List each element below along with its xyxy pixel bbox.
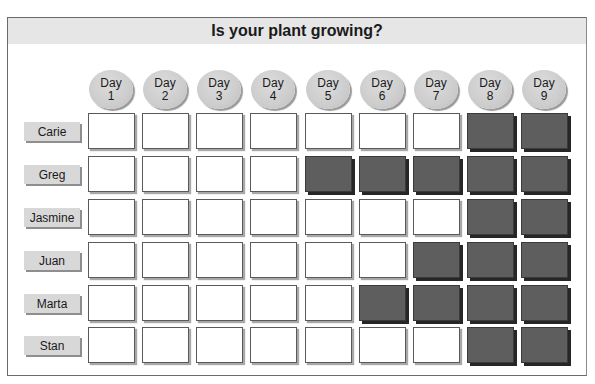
student-name-label: Carie [24,122,80,141]
grid-cell-grown [359,285,406,321]
grid-cell-empty [142,199,189,235]
grid-cell-empty [88,156,135,192]
grid-cell-grown [305,156,352,192]
grid-cell-empty [359,199,406,235]
day-number: 8 [487,90,494,103]
day-number: 1 [108,90,115,103]
day-badge-5: Day5 [306,70,350,109]
grid-cell-empty [250,156,297,192]
grid-cell-empty [196,113,243,149]
student-name-label: Jasmine [24,208,80,227]
student-name-label: Greg [24,165,80,184]
grid-cell-empty [413,199,460,235]
day-label: Day [425,77,446,90]
grid-cell-empty [250,242,297,278]
grid-cell-grown [467,327,514,363]
day-label: Day [262,77,283,90]
grid-cell-empty [250,113,297,149]
chart-title: Is your plant growing? [211,22,383,40]
grid-cell-empty [196,285,243,321]
grid-cell-empty [142,327,189,363]
grid-cell-empty [305,285,352,321]
grid-cell-empty [413,113,460,149]
grid-cell-empty [359,242,406,278]
day-label: Day [533,77,554,90]
day-label: Day [100,77,121,90]
day-badge-7: Day7 [414,70,458,109]
grid-cell-empty [142,285,189,321]
grid-cell-grown [413,242,460,278]
grid-cell-empty [250,199,297,235]
grid-cell-grown [467,285,514,321]
grid-cell-empty [88,285,135,321]
grid-cell-grown [521,113,568,149]
day-badge-2: Day2 [143,70,187,109]
grid-cell-empty [305,327,352,363]
grid-cell-empty [250,327,297,363]
grid-cell-grown [467,199,514,235]
day-number: 5 [325,90,332,103]
grid-cell-empty [305,113,352,149]
grid-cell-empty [196,327,243,363]
student-name-label: Marta [24,294,80,313]
grid-cell-empty [359,327,406,363]
grid-cell-grown [521,327,568,363]
day-number: 2 [162,90,169,103]
grid-cell-empty [142,156,189,192]
day-badge-9: Day9 [522,70,566,109]
day-label: Day [371,77,392,90]
day-label: Day [208,77,229,90]
day-label: Day [154,77,175,90]
student-name-label: Juan [24,251,80,270]
grid-cell-empty [196,199,243,235]
grid-cell-empty [305,199,352,235]
day-badge-4: Day4 [251,70,295,109]
day-label: Day [317,77,338,90]
day-number: 3 [216,90,223,103]
grid-cell-empty [142,242,189,278]
chart-frame: Is your plant growing? [7,17,587,376]
day-badge-3: Day3 [197,70,241,109]
day-number: 9 [541,90,548,103]
grid-cell-grown [467,242,514,278]
day-number: 6 [379,90,386,103]
grid-cell-grown [467,156,514,192]
day-badge-1: Day1 [89,70,133,109]
grid-cell-empty [88,327,135,363]
grid-cell-empty [88,199,135,235]
grid-cell-empty [196,156,243,192]
grid-cell-empty [413,327,460,363]
grid-cell-grown [521,242,568,278]
grid-cell-grown [413,156,460,192]
grid-cell-empty [142,113,189,149]
grid-cell-empty [196,242,243,278]
grid-cell-grown [521,156,568,192]
day-label: Day [479,77,500,90]
day-badge-8: Day8 [468,70,512,109]
day-number: 4 [270,90,277,103]
grid-cell-grown [521,199,568,235]
title-band: Is your plant growing? [8,18,586,44]
day-number: 7 [433,90,440,103]
grid-cell-empty [250,285,297,321]
day-badge-6: Day6 [360,70,404,109]
grid-cell-grown [359,156,406,192]
grid-cell-grown [467,113,514,149]
grid-cell-grown [413,285,460,321]
grid-cell-empty [359,113,406,149]
grid-cell-empty [305,242,352,278]
grid-cell-empty [88,113,135,149]
student-name-label: Stan [24,336,80,355]
grid-cell-grown [521,285,568,321]
grid-cell-empty [88,242,135,278]
